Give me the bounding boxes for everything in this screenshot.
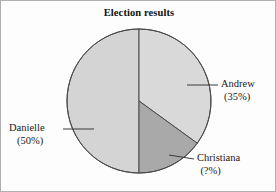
slice-label-christiana-name: Christiana	[197, 152, 240, 163]
slice-label-danielle: Danielle (50%)	[9, 122, 45, 147]
slice-label-danielle-percent: (50%)	[9, 135, 45, 148]
pie-slice-danielle[interactable]	[67, 29, 139, 173]
slice-label-christiana: Christiana (?%)	[197, 152, 240, 177]
slice-label-christiana-percent: (?%)	[197, 165, 240, 178]
pie-chart-figure: Election results Andrew (35%) Danielle (…	[0, 0, 276, 192]
slice-label-andrew: Andrew (35%)	[221, 78, 255, 103]
slice-label-andrew-percent: (35%)	[221, 91, 255, 104]
slice-label-andrew-name: Andrew	[221, 78, 255, 89]
slice-label-danielle-name: Danielle	[9, 122, 45, 133]
